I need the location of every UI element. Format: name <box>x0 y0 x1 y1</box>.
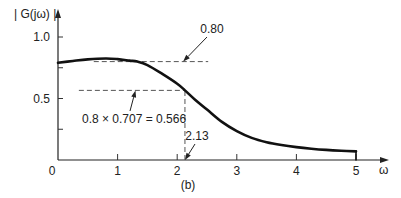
annotations: 0.800.8 × 0.707 = 0.5662.13 <box>82 22 224 160</box>
annotation-arrow <box>188 37 207 57</box>
x-axis-label: ω <box>379 163 388 177</box>
figure-caption: (b) <box>181 178 196 192</box>
ticks: 0123450.51.0 <box>33 30 359 178</box>
reference-lines <box>79 62 208 160</box>
x-tick-label: 4 <box>293 164 300 178</box>
y-axis-label: | G(jω) | <box>14 7 56 21</box>
x-tick-label: 2 <box>174 164 181 178</box>
x-tick-label: 0 <box>49 164 56 178</box>
y-tick-label: 1.0 <box>33 30 50 44</box>
annotation-label: 0.80 <box>200 22 224 36</box>
annotation-arrowhead-icon <box>185 153 191 160</box>
annotation-label: 2.13 <box>185 129 209 143</box>
x-tick-label: 3 <box>233 164 240 178</box>
x-tick-label: 1 <box>114 164 121 178</box>
annotation-arrow <box>130 97 134 111</box>
annotation-arrow <box>189 144 195 154</box>
annotation-label: 0.8 × 0.707 = 0.566 <box>82 112 186 126</box>
frequency-response-chart: 0123450.51.0 0.800.8 × 0.707 = 0.5662.13… <box>0 0 401 198</box>
y-tick-label: 0.5 <box>33 92 50 106</box>
x-tick-label: 5 <box>353 164 360 178</box>
annotation-arrowhead-icon <box>131 90 136 97</box>
